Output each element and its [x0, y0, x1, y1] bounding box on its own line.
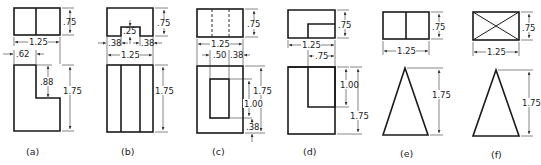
top-view-e: .75 1.25: [383, 12, 446, 56]
dim-depth-d: .75: [338, 20, 352, 30]
dim-height-b: 1.75: [155, 86, 174, 96]
dim-width-a: 1.25: [29, 37, 48, 47]
panel-d: .75 1.25 .75 1.00 1: [288, 10, 369, 157]
orthographic-exercise-figure: .75 1.25 .62 .88 1.75: [0, 0, 541, 165]
dim-step-height-d: 1.00: [340, 80, 359, 90]
caption-e: (e): [400, 148, 413, 159]
dim-height-d: 1.75: [350, 111, 369, 121]
panel-e: .75 1.25 1.75 (e): [383, 12, 451, 159]
dim-notch-depth-a: .88: [40, 77, 54, 87]
dim-right-offset-b: .38: [141, 38, 155, 48]
front-view-d: 1.00 1.75: [288, 67, 369, 134]
dim-slot-depth-b: .25: [123, 26, 137, 36]
dim-depth-f: .75: [522, 23, 536, 33]
top-view-f: .75 1.25: [473, 12, 536, 57]
dim-depth-b: .75: [157, 18, 171, 28]
panel-b: .75 .25 .38 .38 1.25: [98, 8, 174, 157]
dim-depth-c: .75: [247, 19, 261, 29]
caption-a: (a): [26, 146, 39, 157]
dim-step-width-d: .75: [315, 51, 329, 61]
dim-height-a: 1.75: [63, 86, 82, 96]
dim-hole-bottom-c: .38: [246, 122, 260, 132]
dim-width-d: 1.25: [302, 40, 321, 50]
caption-f: (f): [491, 149, 502, 160]
top-view-d: .75 1.25 .75: [288, 10, 352, 66]
dim-left-offset-b: .38: [108, 38, 122, 48]
dim-notch-width-a: .62: [16, 49, 30, 59]
caption-d: (d): [303, 146, 316, 157]
dim-hole-right-c: .38: [230, 50, 244, 60]
dim-height-e: 1.75: [432, 90, 451, 100]
dim-depth-a: .75: [63, 17, 77, 27]
panel-a: .75 1.25 .62 .88 1.75: [3, 8, 82, 157]
panel-c: .75 1.25 .50 .38 1.75: [197, 9, 272, 157]
front-view-a: .62 .88 1.75: [3, 49, 82, 131]
front-view-f: 1.75: [473, 70, 541, 136]
dim-depth-e: .75: [432, 22, 446, 32]
top-view-b: .75 .25 .38 .38 1.25: [98, 8, 171, 64]
dim-width-e: 1.25: [397, 46, 416, 56]
dim-hole-left-c: .50: [213, 50, 227, 60]
front-view-b: 1.75: [107, 65, 174, 132]
panel-f: .75 1.25 1.75 (f): [473, 12, 541, 160]
front-view-c: .50 .38 1.75 1.00 .38: [197, 50, 272, 142]
dim-width-c: 1.25: [211, 39, 230, 49]
dim-height-c: 1.75: [253, 86, 272, 96]
caption-c: (c): [212, 146, 225, 157]
caption-b: (b): [121, 146, 134, 157]
dim-width-f: 1.25: [487, 47, 506, 57]
dim-width-b: 1.25: [121, 50, 140, 60]
dim-hole-height-c: 1.00: [244, 99, 263, 109]
drawing-canvas: .75 1.25 .62 .88 1.75: [0, 0, 541, 165]
dim-height-f: 1.75: [522, 98, 541, 108]
front-view-e: 1.75: [383, 68, 451, 135]
